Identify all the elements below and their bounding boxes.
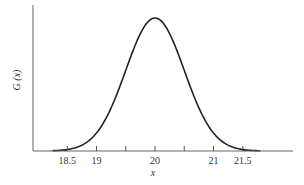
x-tick-label: 21 <box>209 155 219 166</box>
x-tick-label: 21.5 <box>234 155 252 166</box>
x-tick-label: 20 <box>150 155 160 166</box>
x-tick-labels: 18.519202121.5 <box>59 155 252 166</box>
gaussian-curve <box>53 18 261 151</box>
x-axis-label: x <box>150 167 156 178</box>
x-ticks <box>67 146 243 151</box>
chart: 18.519202121.5 x G (x) <box>0 0 304 185</box>
y-axis-label: G (x) <box>11 69 23 90</box>
x-tick-label: 19 <box>92 155 102 166</box>
x-tick-label: 18.5 <box>59 155 77 166</box>
